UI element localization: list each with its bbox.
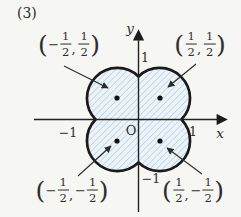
figure-index-label: (3) — [17, 6, 37, 20]
fraction-y: 12 — [79, 30, 90, 59]
figure-canvas: (3) x y O 1 −1 1 −1 ( − 12 , 12 ) ( 12 ,… — [0, 0, 241, 217]
minus-sign: − — [191, 183, 202, 198]
y-tick-pos-label: 1 — [141, 52, 149, 65]
point-label-top-right: ( 12 , 12 ) — [174, 30, 226, 59]
open-paren: ( — [37, 32, 48, 57]
y-axis-label: y — [126, 22, 134, 36]
fraction-x: 12 — [58, 176, 69, 205]
y-tick-neg-label: −1 — [142, 173, 160, 186]
origin-label: O — [126, 124, 137, 137]
close-paren: ) — [90, 32, 101, 57]
minus-sign: − — [48, 37, 59, 52]
close-paren: ) — [214, 178, 225, 203]
center-dot-bottom-right — [157, 138, 162, 143]
comma: , — [71, 40, 75, 55]
fraction-x: 12 — [60, 30, 71, 59]
point-label-bottom-right: ( 12 , − 12 ) — [161, 176, 224, 205]
open-paren: ( — [35, 178, 46, 203]
center-dot-bottom-left — [114, 138, 119, 143]
open-paren: ( — [174, 32, 185, 57]
fraction-y: 12 — [87, 176, 98, 205]
fraction-y: 12 — [203, 176, 214, 205]
center-dot-top-left — [114, 95, 119, 100]
minus-sign: − — [75, 183, 86, 198]
comma: , — [197, 40, 201, 55]
x-axis-label: x — [216, 127, 224, 141]
open-paren: ( — [161, 178, 172, 203]
x-tick-neg-label: −1 — [59, 127, 77, 140]
fraction-y: 12 — [204, 30, 215, 59]
point-label-bottom-left: ( − 12 , − 12 ) — [35, 176, 109, 205]
fraction-x: 12 — [173, 176, 184, 205]
comma: , — [69, 186, 73, 201]
fraction-x: 12 — [186, 30, 197, 59]
comma: , — [184, 186, 188, 201]
x-tick-pos-label: 1 — [189, 126, 197, 139]
center-dot-top-right — [157, 95, 162, 100]
close-paren: ) — [215, 32, 226, 57]
close-paren: ) — [98, 178, 109, 203]
minus-sign: − — [46, 183, 57, 198]
point-label-top-left: ( − 12 , 12 ) — [37, 30, 100, 59]
